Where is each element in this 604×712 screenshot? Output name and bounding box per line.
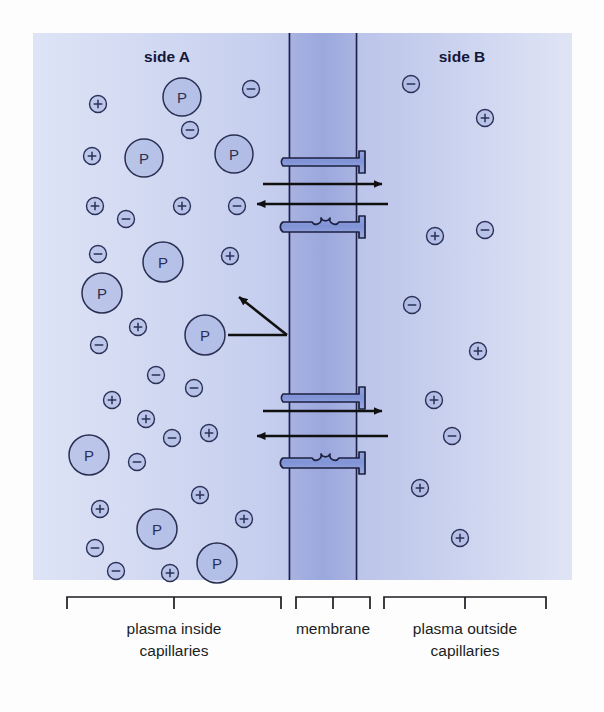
cation-particle [470,343,487,360]
cation-particle [162,565,179,582]
anion-particle [164,430,181,447]
protein-particle: P [197,543,237,583]
protein-particle: P [163,78,201,116]
cation-particle [192,487,209,504]
protein-particle: P [185,315,225,355]
anion-particle [87,540,104,557]
protein-letter: P [97,285,107,302]
bracket-left-label-line1: plasma inside [127,620,222,637]
bracket-right-label-line2: capillaries [431,642,500,659]
anion-particle [444,428,461,445]
anion-particle [404,297,421,314]
cation-particle [138,411,155,428]
cation-particle [477,110,494,127]
anion-particle [229,198,246,215]
protein-particle: P [69,435,109,475]
bracket-right-label-line1: plasma outside [413,620,517,637]
anion-particle [91,337,108,354]
anion-particle [129,454,146,471]
cation-particle [87,198,104,215]
anion-particle [243,81,260,98]
anion-particle [477,222,494,239]
protein-particle: P [137,509,177,549]
anion-particle [182,122,199,139]
protein-particle: P [143,242,183,282]
protein-letter: P [84,447,94,464]
protein-letter: P [200,327,210,344]
cation-particle [130,319,147,336]
cation-particle [104,392,121,409]
diagram-figure: side A side B PPPPPPPPP pl [0,0,604,712]
protein-letter: P [229,146,239,163]
protein-letter: P [177,89,187,106]
cation-particle [412,480,429,497]
protein-particle: P [215,135,253,173]
protein-letter: P [212,555,222,572]
cation-particle [174,198,191,215]
anion-particle [148,367,165,384]
diagram-canvas: side A side B PPPPPPPPP pl [0,0,604,712]
cation-particle [236,511,253,528]
cation-particle [201,425,218,442]
side-b-label: side B [439,48,486,65]
anion-particle [118,211,135,228]
cation-particle [452,530,469,547]
cation-particle [427,228,444,245]
cation-particle [90,96,107,113]
protein-particle: P [125,139,163,177]
protein-letter: P [158,254,168,271]
protein-letter: P [139,150,149,167]
anion-particle [186,380,203,397]
side-a-label: side A [144,48,190,65]
bracket-left-label-line2: capillaries [140,642,209,659]
anion-particle [108,563,125,580]
cation-particle [92,501,109,518]
anion-particle [90,246,107,263]
bracket-center-label-line1: membrane [296,620,370,637]
protein-particle: P [82,273,122,313]
cation-particle [222,248,239,265]
cation-particle [84,148,101,165]
membrane-band [288,33,358,580]
anion-particle [403,76,420,93]
protein-letter: P [152,521,162,538]
cation-particle [426,392,443,409]
